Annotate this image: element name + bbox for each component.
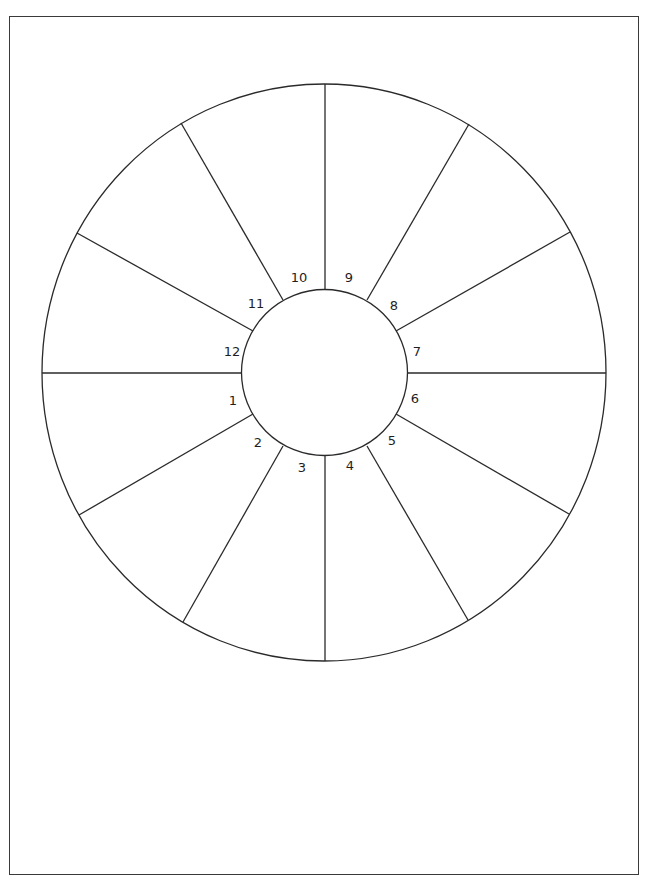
house-number-7: 7 <box>413 344 421 359</box>
house-divider-line <box>396 232 570 331</box>
house-number-12: 12 <box>224 344 241 359</box>
house-divider-line <box>367 446 468 620</box>
house-number-1: 1 <box>229 393 237 408</box>
house-divider-line <box>77 233 253 331</box>
house-wheel-diagram: 123456789101112 <box>0 0 653 880</box>
house-number-3: 3 <box>298 460 306 475</box>
house-number-9: 9 <box>345 270 353 285</box>
house-divider-line <box>396 414 569 514</box>
house-divider-line <box>367 124 469 300</box>
house-divider-line <box>183 446 283 622</box>
house-number-4: 4 <box>346 458 354 473</box>
house-number-2: 2 <box>254 435 262 450</box>
house-number-8: 8 <box>390 298 398 313</box>
house-divider-line <box>79 414 253 515</box>
house-divider-line <box>181 123 283 300</box>
house-number-6: 6 <box>411 391 419 406</box>
house-number-11: 11 <box>248 296 265 311</box>
inner-circle <box>242 290 408 456</box>
house-number-10: 10 <box>291 270 308 285</box>
house-number-5: 5 <box>388 433 396 448</box>
